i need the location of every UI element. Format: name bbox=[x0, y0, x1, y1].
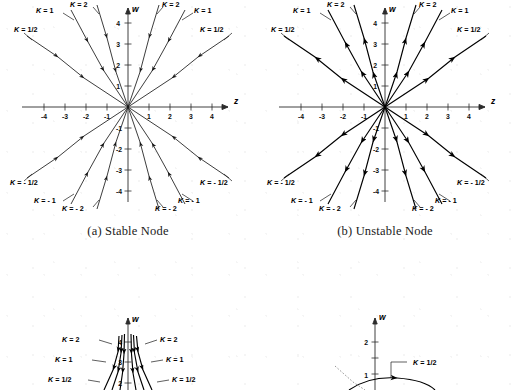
curve-label: K = 2 bbox=[160, 335, 177, 344]
tick-y: -3 bbox=[373, 167, 379, 174]
curve-label: K = 1 bbox=[451, 6, 468, 15]
panel-b-x-axis-label: z bbox=[490, 96, 496, 106]
tick-y: 3 bbox=[373, 41, 377, 48]
tick-x: 3 bbox=[446, 113, 450, 120]
curve-label: K = 1/2 bbox=[48, 375, 71, 384]
tick-x: 4 bbox=[210, 113, 214, 120]
curve-label: K = - 2 bbox=[62, 204, 84, 213]
curve-label: K = 1/2 bbox=[413, 358, 436, 367]
curve-label: K = - 1/2 bbox=[267, 178, 295, 187]
tick-y: -2 bbox=[116, 146, 122, 153]
curve-label: K = 2 bbox=[70, 0, 87, 9]
tick-y: 1 bbox=[116, 83, 120, 90]
panel-b-unstable-node: -4 -3 -2 -1 1 2 3 4 4 3 2 1 -1 -2 -3 -4 … bbox=[257, 0, 513, 246]
tick-x: -2 bbox=[340, 113, 346, 120]
panel-d-partial: w 2 1 K = 1/2 bbox=[257, 300, 513, 390]
figure-phase-portraits: -4 -3 -2 -1 1 2 3 4 4 3 2 1 -1 -2 -3 -4 … bbox=[0, 0, 513, 390]
panel-a-x-axis-label: z bbox=[233, 96, 239, 106]
panel-b-y-axis-label: w bbox=[389, 4, 397, 14]
curve-label: K = 2 bbox=[162, 0, 179, 9]
curve-label: K = 1/2 bbox=[14, 25, 37, 34]
tick-y: 1 bbox=[364, 372, 368, 379]
panel-b-plot: -4 -3 -2 -1 1 2 3 4 4 3 2 1 -1 -2 -3 -4 … bbox=[257, 0, 513, 215]
panel-d-plot: w 2 1 K = 1/2 bbox=[257, 300, 513, 390]
tick-x: 1 bbox=[147, 113, 151, 120]
tick-y: -3 bbox=[116, 167, 122, 174]
curve-label: K = - 1 bbox=[291, 196, 313, 205]
tick-x: -2 bbox=[83, 113, 89, 120]
curve-label: K = - 1 bbox=[435, 196, 457, 205]
curve-label: K = 1/2 bbox=[200, 25, 223, 34]
panel-c-partial: w 4 3 2 bbox=[0, 300, 256, 390]
tick-x: -4 bbox=[41, 113, 47, 120]
curve-label: K = - 2 bbox=[412, 204, 434, 213]
curve-label: K = - 1/2 bbox=[10, 178, 38, 187]
curve-label: K = 2 bbox=[62, 335, 79, 344]
curve-label: K = 1 bbox=[293, 6, 310, 15]
panel-c-plot: w 4 3 2 bbox=[0, 300, 256, 390]
panel-c-y-axis-label: w bbox=[132, 314, 140, 324]
curve-label: K = 1 bbox=[36, 6, 53, 15]
panel-a-curve-labels: K = 1/2 K = 1 K = 2 K = 2 K = 1 K = 1/2 … bbox=[10, 0, 228, 213]
panel-a-plot: -4 -3 -2 -1 1 2 3 4 4 3 2 1 -1 -2 -3 -4 … bbox=[0, 0, 256, 215]
tick-x: 1 bbox=[404, 113, 408, 120]
curve-label: K = 1/2 bbox=[172, 375, 195, 384]
panel-b-curve-labels: K = 1/2 K = 1 K = 2 K = 2 K = 1 K = 1/2 … bbox=[267, 0, 485, 213]
curve-label: K = 1 bbox=[194, 6, 211, 15]
tick-x: -3 bbox=[62, 113, 68, 120]
curve-label: K = - 1/2 bbox=[200, 178, 228, 187]
panel-d-y-axis-label: w bbox=[379, 312, 387, 322]
panel-a-stable-node: -4 -3 -2 -1 1 2 3 4 4 3 2 1 -1 -2 -3 -4 … bbox=[0, 0, 256, 246]
tick-x: 2 bbox=[425, 113, 429, 120]
tick-y: 2 bbox=[373, 62, 377, 69]
tick-y: 2 bbox=[116, 62, 120, 69]
curve-label: K = - 2 bbox=[155, 204, 177, 213]
panel-a-caption: (a) Stable Node bbox=[0, 224, 256, 239]
tick-x: -3 bbox=[319, 113, 325, 120]
panel-d-dotted-curve bbox=[335, 366, 365, 390]
tick-y: 3 bbox=[116, 41, 120, 48]
tick-x: 4 bbox=[467, 113, 471, 120]
tick-y: 4 bbox=[116, 20, 120, 27]
curve-label: K = - 1 bbox=[178, 196, 200, 205]
tick-x: -4 bbox=[298, 113, 304, 120]
tick-y: -4 bbox=[116, 188, 122, 195]
tick-y: -2 bbox=[373, 146, 379, 153]
curve-label: K = 1 bbox=[55, 355, 72, 364]
panel-b-caption: (b) Unstable Node bbox=[257, 224, 513, 239]
tick-x: 3 bbox=[189, 113, 193, 120]
tick-y: 2 bbox=[364, 339, 368, 346]
tick-x: 2 bbox=[168, 113, 172, 120]
curve-label: K = - 2 bbox=[319, 204, 341, 213]
tick-y: 4 bbox=[373, 20, 377, 27]
curve-label: K = 1/2 bbox=[457, 25, 480, 34]
curve-label: K = 1/2 bbox=[271, 25, 294, 34]
curve-label: K = 2 bbox=[419, 0, 436, 9]
curve-label: K = - 1 bbox=[34, 196, 56, 205]
panel-c-leader-lines bbox=[88, 340, 169, 382]
panel-a-y-axis-label: w bbox=[132, 4, 140, 14]
curve-label: K = 2 bbox=[327, 0, 344, 9]
tick-y: -4 bbox=[373, 188, 379, 195]
curve-label: K = - 1/2 bbox=[457, 178, 485, 187]
curve-label: K = 1 bbox=[166, 355, 183, 364]
